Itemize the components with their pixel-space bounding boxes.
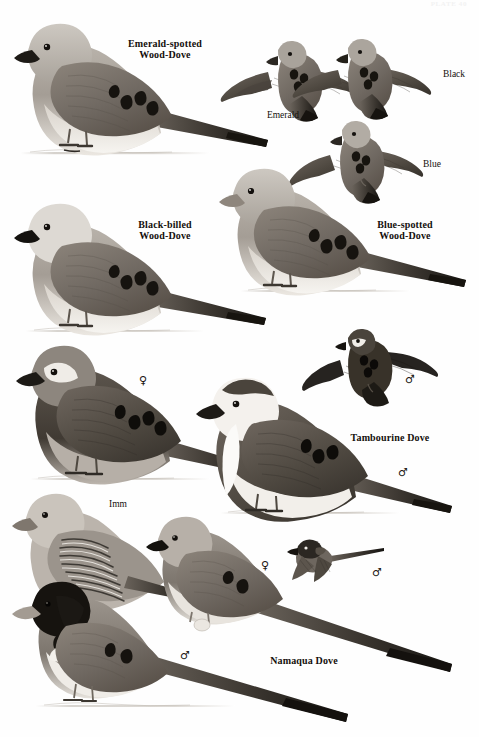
- sex-symbol-tambourine-male-perched: ♂: [398, 467, 408, 478]
- morph-label-emerald: Emerald: [259, 110, 307, 121]
- sex-symbol-namaqua-female-perched: ♀: [261, 560, 269, 571]
- species-label-emerald-spotted-wood-dove: Emerald-spotted Wood-Dove: [112, 38, 218, 60]
- species-label-black-billed-wood-dove: Black-billed Wood-Dove: [112, 219, 218, 241]
- sex-symbol-tambourine-male-flight: ♂: [405, 374, 415, 385]
- field-guide-plate: PLATE 40: [0, 0, 479, 737]
- age-label-immature: Imm: [104, 499, 132, 510]
- namaqua-dove-male-flight-illustration: [287, 540, 384, 582]
- species-label-namaqua-dove: Namaqua Dove: [258, 655, 350, 666]
- sex-symbol-namaqua-male-flight: ♂: [372, 567, 382, 578]
- species-label-tambourine-dove: Tambourine Dove: [340, 432, 440, 443]
- species-label-blue-spotted-wood-dove: Blue-spotted Wood-Dove: [352, 219, 458, 241]
- tambourine-dove-male-flight-illustration: [302, 329, 438, 407]
- morph-label-black: Black: [434, 69, 474, 80]
- blue-spotted-wood-dove-flight-illustration: [289, 121, 423, 204]
- plate-artwork: [0, 0, 479, 737]
- tambourine-dove-male-perched-illustration: [196, 378, 452, 522]
- morph-label-blue: Blue: [414, 159, 450, 170]
- namaqua-dove-female-perched-illustration: [146, 517, 452, 672]
- sex-symbol-tambourine-female-perched: ♀: [139, 375, 147, 386]
- sex-symbol-namaqua-male-perched: ♂: [180, 650, 190, 661]
